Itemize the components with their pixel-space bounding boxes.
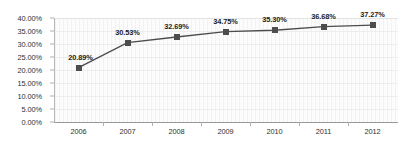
data-point-marker[interactable]	[370, 22, 376, 28]
data-point-label: 30.53%	[115, 28, 139, 37]
data-point-label: 32.69%	[164, 22, 188, 31]
y-tick-mark	[50, 83, 54, 84]
y-tick-mark	[50, 44, 54, 45]
data-point-label: 36.68%	[311, 12, 335, 21]
data-point-marker[interactable]	[272, 27, 278, 33]
y-tick-mark	[50, 109, 54, 110]
y-tick-mark	[50, 122, 54, 123]
data-point-label: 35.30%	[262, 15, 286, 24]
y-tick-mark	[50, 70, 54, 71]
y-tick-mark	[50, 96, 54, 97]
data-point-marker[interactable]	[174, 34, 180, 40]
data-point-marker[interactable]	[321, 24, 327, 30]
series-line-layer	[0, 0, 406, 156]
y-tick-mark	[50, 31, 54, 32]
chart-container: 0.00%5.00%10.00%15.00%20.00%25.00%30.00%…	[0, 0, 406, 156]
y-tick-mark	[50, 18, 54, 19]
data-point-label: 37.27%	[360, 10, 384, 19]
data-point-marker[interactable]	[76, 65, 82, 71]
data-point-marker[interactable]	[125, 40, 131, 46]
y-tick-mark	[50, 57, 54, 58]
data-point-marker[interactable]	[223, 29, 229, 35]
data-point-label: 34.75%	[213, 17, 237, 26]
data-point-label: 20.89%	[68, 53, 92, 62]
